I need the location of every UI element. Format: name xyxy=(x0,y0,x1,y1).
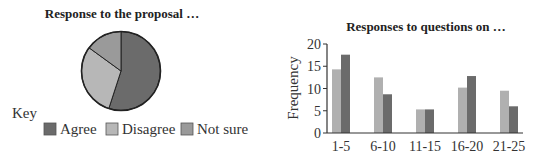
x-tick-label: 16-20 xyxy=(451,139,484,154)
pie-chart: Response to the proposal … Key AgreeDisa… xyxy=(12,6,249,137)
legend-key-label: Key xyxy=(12,105,37,121)
pie-chart-title: Response to the proposal … xyxy=(45,6,199,21)
legend-swatch xyxy=(106,123,118,135)
x-axis-tick-labels: 1-56-1011-1516-2021-25 xyxy=(332,139,526,154)
bar-1-5-series-2 xyxy=(341,55,350,133)
y-tick-label: 20 xyxy=(307,37,321,52)
bar-6-10-series-1 xyxy=(374,77,383,133)
bar-21-25-series-1 xyxy=(500,91,509,133)
y-tick-label: 10 xyxy=(307,82,321,97)
y-axis-label: Frequency xyxy=(285,56,301,120)
x-tick-label: 21-25 xyxy=(493,139,526,154)
y-tick-label: 15 xyxy=(307,59,321,74)
legend-item-agree: Agree xyxy=(44,121,97,137)
bar-6-10-series-2 xyxy=(383,94,392,133)
pie-slices xyxy=(81,32,160,111)
bar-11-15-series-1 xyxy=(416,109,425,133)
x-tick-label: 6-10 xyxy=(370,139,396,154)
chart-canvas: Response to the proposal … Key AgreeDisa… xyxy=(0,0,538,162)
bar-chart: Responses to questions on … Frequency 05… xyxy=(285,19,525,154)
bars xyxy=(332,55,518,133)
y-axis-ticks: 05101520 xyxy=(307,37,327,141)
legend-swatch xyxy=(181,123,193,135)
legend-label: Agree xyxy=(60,121,97,137)
legend-item-disagree: Disagree xyxy=(106,121,176,137)
x-tick-label: 1-5 xyxy=(332,139,351,154)
bar-11-15-series-2 xyxy=(425,109,434,133)
legend-swatch xyxy=(44,123,56,135)
x-tick-label: 11-15 xyxy=(409,139,441,154)
bar-16-20-series-1 xyxy=(458,88,467,133)
bar-1-5-series-1 xyxy=(332,69,341,133)
bar-16-20-series-2 xyxy=(467,76,476,133)
pie-legend: AgreeDisagreeNot sure xyxy=(44,121,249,137)
y-tick-label: 5 xyxy=(314,104,321,119)
bar-chart-title: Responses to questions on … xyxy=(346,19,506,34)
y-tick-label: 0 xyxy=(314,126,321,141)
legend-label: Not sure xyxy=(197,121,249,137)
legend-item-not-sure: Not sure xyxy=(181,121,249,137)
legend-label: Disagree xyxy=(122,121,176,137)
bar-21-25-series-2 xyxy=(509,106,518,133)
